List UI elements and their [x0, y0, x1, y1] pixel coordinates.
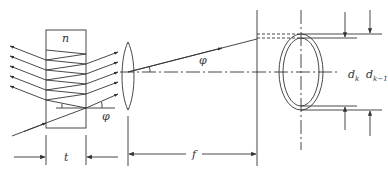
label-phi-plate: φ	[102, 110, 110, 123]
refracted-ray	[46, 108, 86, 123]
interference-diagram: n φ t φ f dk dk−1	[0, 0, 388, 176]
label-t: t	[64, 151, 69, 164]
label-phi-lens: φ	[199, 54, 207, 67]
label-dk-1: dk−1	[366, 68, 388, 83]
label-f: f	[191, 148, 198, 161]
internal-reflections	[46, 50, 86, 108]
transmitted-ray	[86, 82, 118, 94]
angle-arc-lens	[149, 66, 150, 72]
label-dk: dk	[348, 68, 359, 83]
label-n: n	[62, 32, 69, 45]
lens	[122, 42, 134, 110]
